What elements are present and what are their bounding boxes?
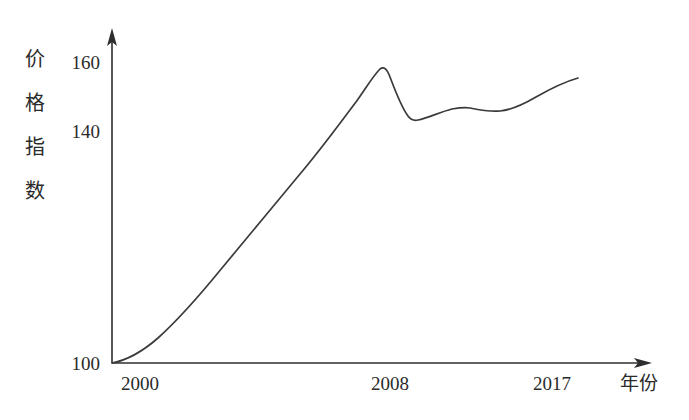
y-tick-label-160: 160	[72, 52, 101, 73]
price-index-chart: 价 格 指 数 160 140 100 2000 2008 2017 年份	[0, 0, 689, 420]
price-index-curve	[112, 68, 578, 363]
x-tick-label-2017: 2017	[533, 373, 571, 394]
y-tick-label-140: 140	[72, 121, 101, 142]
y-tick-label-100: 100	[72, 353, 101, 374]
x-tick-label-2000: 2000	[121, 373, 159, 394]
chart-canvas: 160 140 100 2000 2008 2017 年份	[0, 0, 689, 420]
x-axis-title: 年份	[620, 373, 658, 394]
x-tick-label-2008: 2008	[371, 373, 409, 394]
